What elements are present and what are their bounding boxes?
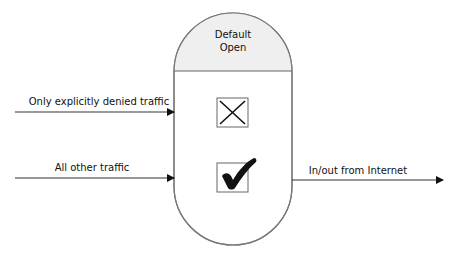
- firewall-title-line2: Open: [220, 42, 247, 53]
- firewall-title-line1: Default: [215, 29, 252, 40]
- label-other-traffic: All other traffic: [55, 162, 130, 173]
- output-flow: In/out from Internet: [292, 165, 443, 180]
- label-internet: In/out from Internet: [309, 165, 407, 176]
- input-flow-allowed: All other traffic: [15, 162, 174, 178]
- label-denied-traffic: Only explicitly denied traffic: [29, 96, 170, 107]
- input-flow-denied: Only explicitly denied traffic: [15, 96, 174, 112]
- default-open-diagram: Default Open Only explicitly denied traf…: [0, 0, 457, 256]
- x-mark-icon: [217, 98, 248, 127]
